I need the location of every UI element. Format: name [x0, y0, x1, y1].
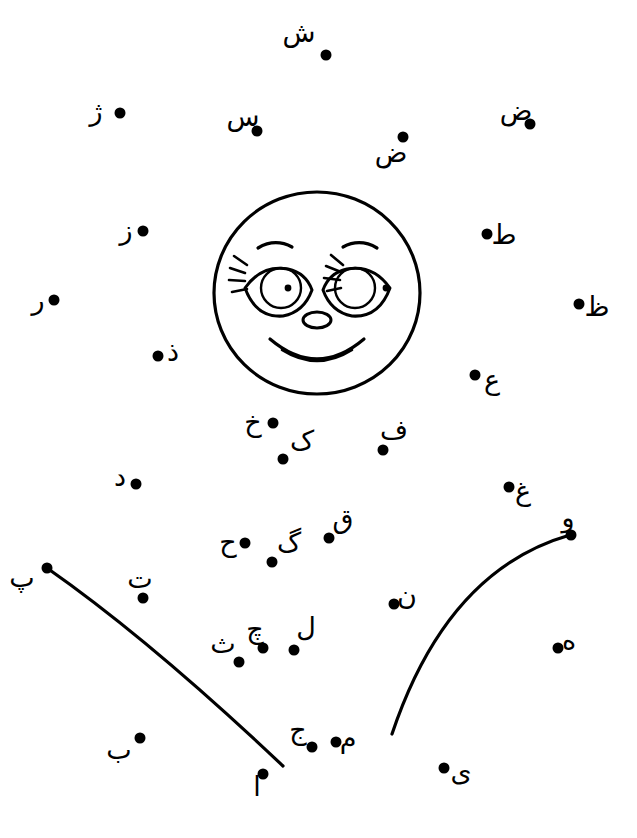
dot-cheh[interactable]	[258, 643, 269, 654]
line-art-layer	[0, 0, 637, 838]
letter-reh: ر	[31, 286, 44, 313]
letter-teh: ت	[127, 565, 152, 592]
letter-dal: د	[114, 463, 126, 490]
right-eye-outline-icon	[323, 268, 390, 316]
dot-beh[interactable]	[135, 733, 146, 744]
letter-seen: س	[227, 103, 260, 130]
right-pupil-icon	[383, 285, 390, 292]
letter-kheh: خ	[244, 408, 261, 435]
dot-za[interactable]	[574, 299, 585, 310]
dot-teh[interactable]	[138, 593, 149, 604]
dot-heh-jimi[interactable]	[240, 538, 251, 549]
letter-heh: ه	[562, 626, 576, 653]
dot-zeh[interactable]	[138, 226, 149, 237]
letter-cheh: چ	[246, 615, 263, 642]
right-iris-icon	[335, 268, 375, 308]
dot-peh[interactable]	[42, 563, 53, 574]
letter-za: ظ	[585, 293, 610, 320]
left-eye-outline-icon	[245, 268, 312, 316]
letter-noon: ن	[397, 582, 417, 609]
letter-peh: پ	[9, 564, 34, 591]
left-eyebrow-icon	[258, 243, 292, 248]
letter-mim: م	[340, 725, 357, 752]
dot-yeh[interactable]	[439, 763, 450, 774]
left-arc	[47, 568, 283, 766]
left-pupil-icon	[285, 285, 292, 292]
dot-dal[interactable]	[131, 479, 142, 490]
dot-feh[interactable]	[378, 445, 389, 456]
letter-qaf: ق	[333, 505, 354, 532]
letter-feh: ف	[380, 416, 408, 443]
letter-heh-jimi: ح	[219, 528, 236, 555]
letter-ta: ط	[492, 221, 517, 248]
letter-zeh: ز	[119, 216, 132, 243]
letter-gaf: گ	[277, 529, 301, 556]
letter-zal: ذ	[167, 338, 179, 365]
dot-zheh[interactable]	[115, 108, 126, 119]
letter-vav: و	[561, 504, 574, 531]
dot-zal[interactable]	[153, 351, 164, 362]
dot-qaf[interactable]	[324, 533, 335, 544]
letter-zheh: ژ	[89, 97, 102, 124]
right-eyelashes-icon	[324, 255, 343, 291]
dot-jim[interactable]	[307, 742, 318, 753]
dot-ghayn[interactable]	[504, 482, 515, 493]
letter-kaf: ک	[290, 427, 314, 454]
smile-lower-lip-icon	[282, 350, 352, 361]
face-outline-icon	[214, 192, 420, 394]
dot-kheh[interactable]	[268, 418, 279, 429]
dot-kaf[interactable]	[278, 454, 289, 465]
worksheet-canvas: شژسضضزطرظذعخفکدغقوحگپتنهچلثجمبیا	[0, 0, 637, 838]
letter-seh: ث	[210, 630, 235, 657]
letter-alef: ا	[253, 773, 261, 800]
dot-shin[interactable]	[321, 50, 332, 61]
letter-lam: ل	[296, 614, 316, 641]
face-drawing	[214, 192, 420, 394]
smile-icon	[270, 339, 364, 359]
letter-ayn: ع	[484, 366, 500, 393]
dot-reh[interactable]	[49, 295, 60, 306]
letter-jim: ج	[289, 716, 306, 743]
left-iris-icon	[261, 268, 301, 308]
nose-icon	[303, 312, 331, 328]
dot-ayn[interactable]	[470, 370, 481, 381]
letter-ghayn: غ	[515, 477, 531, 504]
letter-zad-upper-right: ض	[500, 97, 533, 124]
left-eyelashes-icon	[229, 256, 247, 292]
dot-gaf[interactable]	[267, 557, 278, 568]
dot-to-dot-curves	[47, 535, 570, 766]
letter-beh: ب	[106, 736, 131, 763]
dot-lam[interactable]	[289, 645, 300, 656]
letter-zad-upper-mid: ض	[375, 139, 408, 166]
right-eyebrow-icon	[343, 243, 377, 248]
letter-yeh: ی	[450, 758, 471, 785]
right-arc	[392, 535, 570, 734]
letter-shin: ش	[283, 19, 316, 46]
